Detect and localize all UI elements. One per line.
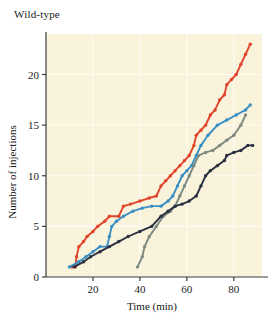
data-point bbox=[249, 42, 252, 45]
data-point bbox=[141, 255, 144, 258]
data-point bbox=[192, 144, 195, 147]
data-point bbox=[108, 235, 111, 238]
data-point bbox=[234, 73, 237, 76]
data-point bbox=[232, 134, 235, 137]
data-point bbox=[166, 209, 169, 212]
data-point bbox=[244, 53, 247, 56]
data-point bbox=[68, 265, 71, 268]
data-point bbox=[148, 235, 151, 238]
data-point bbox=[96, 225, 99, 228]
x-tick-labels: 20406080 bbox=[87, 283, 239, 295]
data-point bbox=[244, 108, 247, 111]
data-point bbox=[166, 199, 169, 202]
data-point bbox=[218, 98, 221, 101]
data-point bbox=[85, 235, 88, 238]
y-tick-labels: 05101520 bbox=[28, 69, 40, 284]
data-point bbox=[108, 245, 111, 248]
data-point bbox=[159, 184, 162, 187]
data-point bbox=[223, 93, 226, 96]
data-point bbox=[230, 78, 233, 81]
data-point bbox=[89, 255, 92, 258]
data-point bbox=[204, 174, 207, 177]
data-point bbox=[180, 174, 183, 177]
x-axis-label: Time (min) bbox=[127, 300, 177, 313]
data-point bbox=[199, 144, 202, 147]
chart-figure: Wild-type 20406080 05101520 Time (min) N… bbox=[0, 0, 274, 318]
data-point bbox=[223, 159, 226, 162]
data-point bbox=[110, 225, 113, 228]
y-axis-label: Number of injections bbox=[6, 125, 18, 218]
data-point bbox=[115, 220, 118, 223]
data-point bbox=[77, 245, 80, 248]
data-point bbox=[91, 230, 94, 233]
data-point bbox=[188, 199, 191, 202]
x-tick-label: 80 bbox=[228, 283, 240, 295]
data-point bbox=[225, 139, 228, 142]
data-point bbox=[211, 149, 214, 152]
data-point bbox=[178, 194, 181, 197]
data-point bbox=[171, 194, 174, 197]
data-point bbox=[213, 108, 216, 111]
data-point bbox=[204, 151, 207, 154]
line-chart: 20406080 05101520 Time (min) Number of i… bbox=[0, 0, 274, 318]
data-point bbox=[98, 245, 101, 248]
data-point bbox=[117, 215, 120, 218]
data-point bbox=[84, 255, 87, 258]
data-point bbox=[180, 202, 183, 205]
x-tick-label: 20 bbox=[87, 283, 99, 295]
plot-area-background bbox=[46, 34, 262, 277]
data-point bbox=[82, 260, 85, 263]
data-point bbox=[122, 215, 125, 218]
data-point bbox=[122, 204, 125, 207]
data-point bbox=[159, 204, 162, 207]
data-point bbox=[176, 184, 179, 187]
data-point bbox=[129, 202, 132, 205]
data-point bbox=[131, 209, 134, 212]
data-point bbox=[216, 164, 219, 167]
data-point bbox=[138, 199, 141, 202]
data-point bbox=[204, 123, 207, 126]
data-point bbox=[185, 169, 188, 172]
data-point bbox=[209, 113, 212, 116]
y-tick-label: 20 bbox=[28, 69, 40, 81]
data-point bbox=[195, 134, 198, 137]
data-point bbox=[155, 194, 158, 197]
data-point bbox=[199, 128, 202, 131]
data-point bbox=[249, 103, 252, 106]
data-point bbox=[188, 154, 191, 157]
data-point bbox=[197, 154, 200, 157]
data-point bbox=[239, 123, 242, 126]
data-point bbox=[126, 235, 129, 238]
data-point bbox=[75, 255, 78, 258]
data-point bbox=[178, 164, 181, 167]
data-point bbox=[169, 174, 172, 177]
data-point bbox=[103, 220, 106, 223]
data-point bbox=[150, 204, 153, 207]
data-point bbox=[91, 250, 94, 253]
data-point bbox=[225, 118, 228, 121]
x-tick-label: 60 bbox=[181, 283, 193, 295]
data-point bbox=[117, 240, 120, 243]
data-point bbox=[155, 225, 158, 228]
y-tick-label: 10 bbox=[28, 170, 40, 182]
data-point bbox=[82, 240, 85, 243]
data-point bbox=[244, 113, 247, 116]
data-point bbox=[164, 179, 167, 182]
data-point bbox=[183, 159, 186, 162]
data-point bbox=[239, 63, 242, 66]
data-point bbox=[138, 230, 141, 233]
data-point bbox=[232, 151, 235, 154]
data-point bbox=[218, 144, 221, 147]
data-point bbox=[136, 265, 139, 268]
data-point bbox=[159, 215, 162, 218]
data-point bbox=[183, 184, 186, 187]
data-point bbox=[234, 113, 237, 116]
data-point bbox=[225, 83, 228, 86]
data-point bbox=[72, 265, 75, 268]
x-tick-label: 40 bbox=[134, 283, 146, 295]
y-tick-label: 0 bbox=[34, 271, 40, 283]
data-point bbox=[225, 154, 228, 157]
data-point bbox=[195, 194, 198, 197]
data-point bbox=[239, 149, 242, 152]
data-point bbox=[199, 184, 202, 187]
